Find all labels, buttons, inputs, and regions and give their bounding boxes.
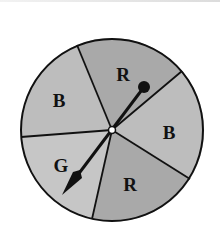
label-r-top: R xyxy=(116,64,130,85)
label-b-left: B xyxy=(53,90,66,111)
pointer-tail-ball xyxy=(138,81,150,93)
label-b-right: B xyxy=(163,122,176,143)
label-g: G xyxy=(54,155,69,176)
label-r-bottom: R xyxy=(123,174,137,195)
center-pin xyxy=(109,127,116,134)
spinner-diagram: R B R G B xyxy=(0,0,220,237)
